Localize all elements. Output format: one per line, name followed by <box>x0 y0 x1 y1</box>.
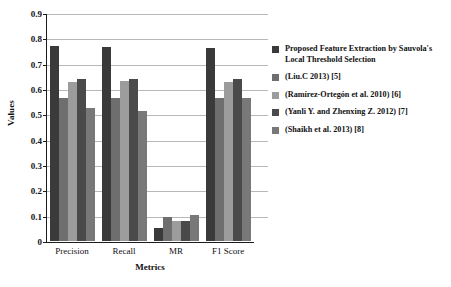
bar <box>172 221 181 241</box>
y-tick-label: 0.9 <box>31 10 42 19</box>
bar <box>163 217 172 241</box>
bar-group <box>102 13 147 241</box>
bar <box>68 82 77 241</box>
legend-item[interactable]: Proposed Feature Extraction by Sauvola's… <box>272 44 447 65</box>
bar <box>77 79 86 241</box>
legend-swatch-icon <box>272 127 279 134</box>
bar <box>206 48 215 241</box>
bar-chart-figure: Values 00.10.20.30.40.50.60.70.80.9 Prec… <box>0 0 451 287</box>
legend-swatch-icon <box>272 46 279 53</box>
y-tick-label: 0.8 <box>31 35 42 44</box>
bar <box>50 46 59 241</box>
legend-swatch-icon <box>272 74 279 81</box>
legend-swatch-icon <box>272 92 279 99</box>
legend-item[interactable]: (Ramírez-Ortegón et al. 2010) [6] <box>272 90 447 101</box>
bar <box>190 215 199 241</box>
y-tick-label: 0.6 <box>31 86 42 95</box>
x-tick-label: Precision <box>55 246 89 256</box>
legend-item[interactable]: (Shaikh et al. 2013) [8] <box>272 125 447 136</box>
y-tick-label: 0.7 <box>31 60 42 69</box>
y-tick-label: 0.3 <box>31 162 42 171</box>
bar <box>154 228 163 241</box>
bar <box>86 108 95 241</box>
legend-item[interactable]: (Yanli Y. and Zhenxing Z. 2012) [7] <box>272 107 447 118</box>
legend-item-label: (Yanli Y. and Zhenxing Z. 2012) [7] <box>285 107 408 118</box>
plot-area: 00.10.20.30.40.50.60.70.80.9 PrecisionRe… <box>46 14 254 242</box>
legend-item-label: (Shaikh et al. 2013) [8] <box>285 125 364 136</box>
x-axis-title: Metrics <box>46 262 254 272</box>
bar-group <box>206 13 251 241</box>
bar-group <box>154 13 199 241</box>
y-axis-line <box>46 14 47 243</box>
legend-item-label: (Liu.C 2013) [5] <box>285 72 341 83</box>
bar <box>138 111 147 241</box>
bar <box>233 79 242 241</box>
y-tick-label: 0 <box>38 238 43 247</box>
bar <box>242 98 251 241</box>
x-tick-label: Recall <box>113 246 136 256</box>
x-axis-line <box>46 242 254 243</box>
bar <box>224 82 233 241</box>
legend-item-label: (Ramírez-Ortegón et al. 2010) [6] <box>285 90 401 101</box>
bar <box>59 98 68 241</box>
y-tick-label: 0.4 <box>31 136 42 145</box>
legend-item[interactable]: (Liu.C 2013) [5] <box>272 72 447 83</box>
bar <box>111 98 120 241</box>
y-tick-label: 0.5 <box>31 111 42 120</box>
bar <box>129 79 138 241</box>
bar <box>102 47 111 241</box>
bar-group <box>50 13 95 241</box>
y-axis-title: Values <box>6 78 16 148</box>
x-tick-label: MR <box>169 246 183 256</box>
y-tick-label: 0.2 <box>31 187 42 196</box>
legend-swatch-icon <box>272 109 279 116</box>
chart-legend: Proposed Feature Extraction by Sauvola's… <box>272 44 447 142</box>
legend-item-label: Proposed Feature Extraction by Sauvola's… <box>285 44 441 65</box>
bar <box>215 98 224 241</box>
bar <box>120 81 129 241</box>
bar <box>181 221 190 241</box>
y-tick-label: 0.1 <box>31 212 42 221</box>
x-tick-label: F1 Score <box>212 246 244 256</box>
